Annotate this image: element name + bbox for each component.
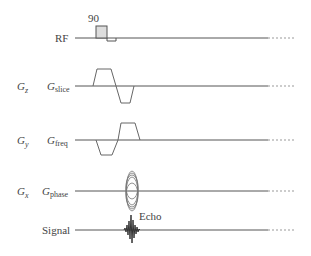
pulse-sequence-diagram: 90 Echo RF Gz Gslice Gy Gfreq Gx Gphase … (0, 0, 311, 256)
gslice-label: Gslice (47, 80, 70, 94)
gy-axis-label: Gy (17, 134, 29, 149)
echo-waveform (124, 215, 140, 243)
gfreq-label: Gfreq (47, 134, 68, 148)
gphase-label: Gphase (42, 185, 69, 199)
flip-angle-label: 90 (88, 12, 100, 24)
gz-axis-label: Gz (17, 80, 29, 95)
rf-label: RF (55, 32, 68, 44)
gx-axis-label: Gx (17, 185, 29, 200)
rf-90-pulse (96, 26, 107, 38)
freq-gradient-lobes (96, 123, 140, 155)
echo-label: Echo (139, 210, 162, 222)
signal-label: Signal (42, 224, 70, 236)
